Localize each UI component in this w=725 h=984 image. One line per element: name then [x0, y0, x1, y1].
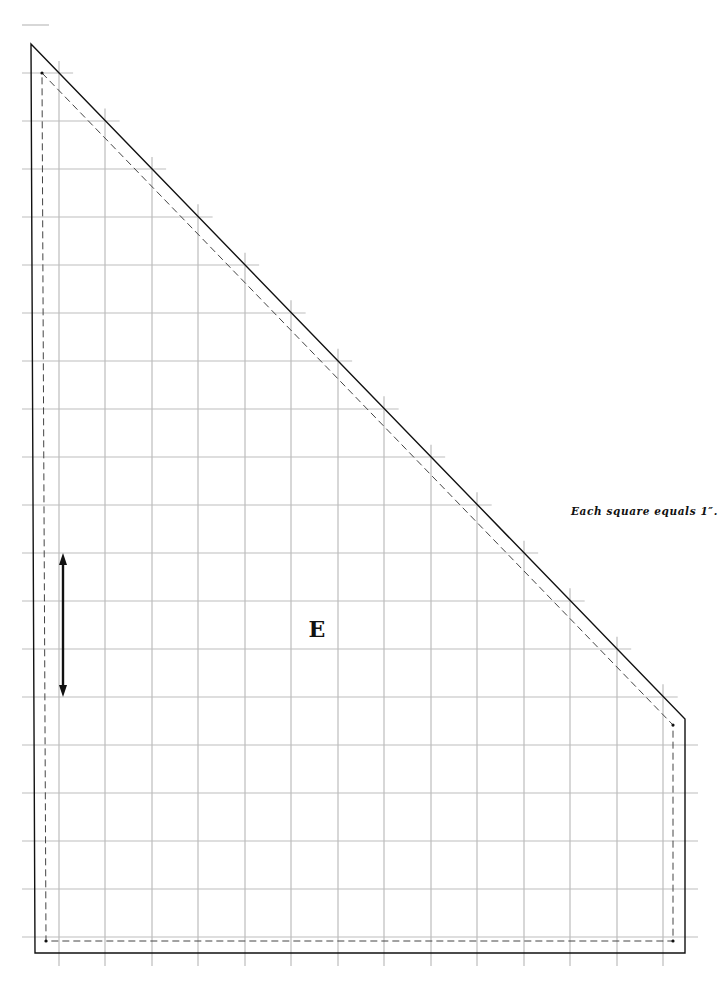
grain-line-arrow-icon [59, 553, 67, 697]
grid [22, 25, 698, 966]
piece-label: E [305, 617, 329, 641]
cut-line [31, 44, 685, 953]
pattern-page: E Each square equals 1″. [0, 0, 725, 984]
scale-note: Each square equals 1″. [571, 505, 718, 517]
pattern-diagram [0, 0, 725, 984]
